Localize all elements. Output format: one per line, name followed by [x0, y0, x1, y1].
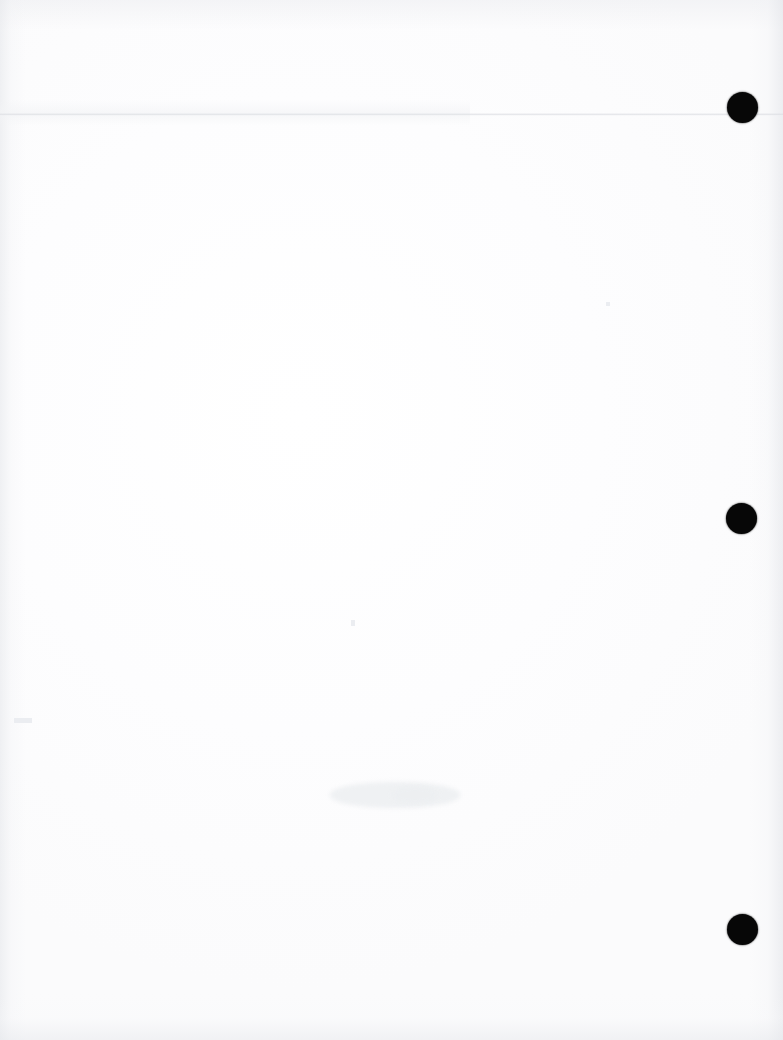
upper-right-speck — [606, 302, 610, 306]
top-punch-hole — [727, 92, 758, 123]
scan-edge-shading-top — [0, 0, 783, 30]
scan-edge-shading-left — [0, 0, 26, 1040]
middle-punch-hole — [726, 503, 757, 534]
scanned-page — [0, 0, 783, 1040]
center-speck — [351, 620, 355, 626]
center-show-through-secondary — [392, 786, 438, 804]
left-margin-speck — [14, 718, 32, 723]
scan-edge-shading-bottom — [0, 994, 783, 1040]
paper-background — [0, 0, 783, 1040]
horizontal-crease-line — [0, 113, 783, 116]
bottom-punch-hole — [727, 914, 758, 945]
